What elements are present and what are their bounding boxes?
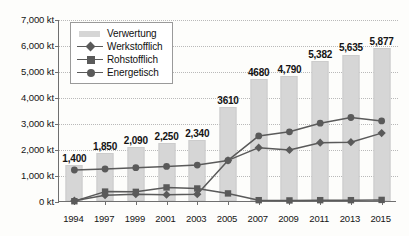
legend-key-icon	[77, 67, 103, 78]
x-tick-label: 2003	[186, 214, 206, 224]
y-tick-label: 5,000 kt	[2, 67, 54, 77]
legend-item[interactable]: Rohstofflich	[77, 53, 163, 66]
bar-value-label: 1,400	[62, 154, 86, 164]
bar-value-label: 4,790	[277, 65, 301, 75]
data-point-marker	[317, 197, 323, 203]
data-point-marker	[378, 197, 384, 203]
data-point-marker	[286, 197, 292, 203]
bar-value-label: 5,382	[308, 50, 332, 60]
y-tick-mark	[55, 202, 59, 203]
chart-container: 7,000 kt6,000 kt5,000 kt4,000 kt3,000 kt…	[0, 0, 409, 236]
data-point-marker	[102, 188, 108, 194]
legend-key-icon	[77, 54, 103, 65]
data-point-marker	[285, 146, 293, 154]
x-tick-label: 2009	[278, 214, 298, 224]
data-point-marker	[162, 191, 170, 199]
y-tick-label: 6,000 kt	[2, 41, 54, 51]
legend-label: Verwertung	[107, 28, 157, 39]
data-point-marker	[348, 114, 355, 121]
data-point-marker	[71, 167, 78, 174]
legend-item[interactable]: Werkstofflich	[77, 40, 163, 53]
data-point-marker	[255, 133, 262, 140]
y-tick-label: 3,000 kt	[2, 119, 54, 129]
x-tick-label: 2001	[155, 214, 175, 224]
bar-value-label: 1,850	[93, 142, 117, 152]
data-point-marker	[316, 139, 324, 147]
y-tick-label: 0 kt	[2, 197, 54, 207]
legend-label: Rohstofflich	[107, 54, 158, 65]
data-point-marker	[348, 197, 354, 203]
legend-label: Energetisch	[107, 67, 159, 78]
x-tick-label: 2007	[248, 214, 268, 224]
data-point-marker	[317, 120, 324, 127]
line-series	[71, 114, 385, 173]
y-tick-label: 1,000 kt	[2, 171, 54, 181]
data-point-marker	[378, 129, 386, 137]
data-point-marker	[194, 162, 201, 169]
y-tick-label: 2,000 kt	[2, 145, 54, 155]
chart-legend: VerwertungWerkstofflichRohstofflichEnerg…	[70, 22, 173, 84]
legend-label: Werkstofflich	[107, 41, 163, 52]
bar-value-label: 2,090	[124, 136, 148, 146]
legend-key-icon	[77, 41, 103, 52]
legend-item[interactable]: Verwertung	[77, 27, 163, 40]
x-tick-label: 2011	[309, 214, 329, 224]
data-point-marker	[194, 185, 200, 191]
x-tick-label: 2015	[370, 214, 390, 224]
bar-value-label: 5,635	[339, 43, 363, 53]
bar-value-label: 2,340	[185, 129, 209, 139]
data-point-marker	[225, 190, 231, 196]
x-tick-label: 2013	[340, 214, 360, 224]
data-point-marker	[163, 163, 170, 170]
bar-value-label: 5,877	[370, 37, 394, 47]
x-tick-label: 1994	[63, 214, 83, 224]
data-point-marker	[71, 198, 77, 204]
bar-value-label: 4680	[248, 68, 269, 78]
y-tick-label: 7,000 kt	[2, 15, 54, 25]
y-tick-label: 4,000 kt	[2, 93, 54, 103]
y-axis-tick-labels: 7,000 kt6,000 kt5,000 kt4,000 kt3,000 kt…	[0, 0, 54, 236]
data-point-marker	[132, 164, 139, 171]
x-tick-label: 1999	[125, 214, 145, 224]
data-point-marker	[225, 157, 232, 164]
data-point-marker	[163, 184, 169, 190]
data-point-marker	[102, 166, 109, 173]
legend-key-icon	[77, 28, 103, 39]
data-point-marker	[286, 128, 293, 135]
bar-value-label: 2,250	[155, 132, 179, 142]
data-point-marker	[347, 138, 355, 146]
x-tick-label: 1997	[94, 214, 114, 224]
data-point-marker	[256, 197, 262, 203]
data-point-marker	[378, 117, 385, 124]
data-point-marker	[255, 144, 263, 152]
data-point-marker	[133, 189, 139, 195]
x-tick-label: 2005	[217, 214, 237, 224]
bar-value-label: 3610	[217, 96, 238, 106]
legend-item[interactable]: Energetisch	[77, 66, 163, 79]
